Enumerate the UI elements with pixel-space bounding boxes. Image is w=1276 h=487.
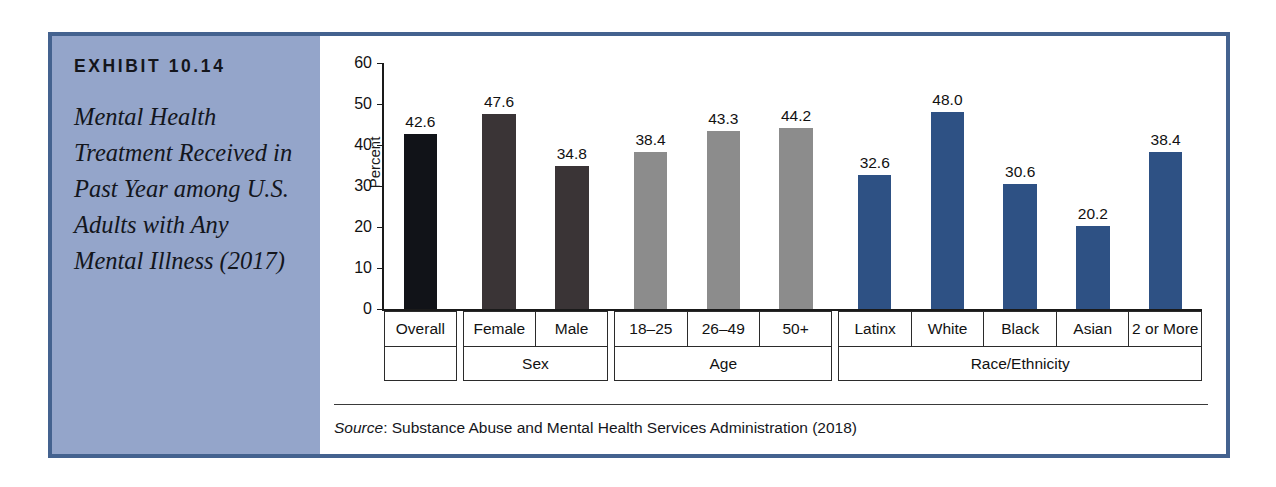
y-tick-label: 60 <box>338 55 372 71</box>
y-tick-label: 50 <box>338 96 372 112</box>
bar-value-label: 47.6 <box>464 94 534 110</box>
source-label: Source <box>334 419 383 436</box>
bar-value-label: 30.6 <box>985 164 1055 180</box>
bar <box>1076 226 1109 309</box>
source-line: Source: Substance Abuse and Mental Healt… <box>334 419 857 437</box>
bar <box>404 134 437 309</box>
category-cell: Asian <box>1057 312 1130 346</box>
bar-value-label: 32.6 <box>840 155 910 171</box>
source-separator: : <box>383 419 392 436</box>
category-cell: Overall <box>385 312 456 346</box>
bar-chart: Percent 0102030405060 42.647.634.838.443… <box>320 36 1226 454</box>
category-cell: 2 or More <box>1129 312 1201 346</box>
exhibit-frame: EXHIBIT 10.14 Mental Health Treatment Re… <box>48 32 1230 458</box>
category-cell: White <box>912 312 985 346</box>
y-tick-label: 0 <box>338 301 372 317</box>
bar-value-label: 43.3 <box>688 111 758 127</box>
category-cell: Male <box>536 312 607 346</box>
bar <box>555 166 588 309</box>
bar <box>1149 152 1182 309</box>
bar-value-label: 42.6 <box>385 114 455 130</box>
source-text: Substance Abuse and Mental Health Servic… <box>392 419 857 436</box>
category-group: Overall <box>384 311 457 381</box>
group-label: Age <box>614 346 832 381</box>
bar <box>482 114 515 309</box>
bar-value-label: 38.4 <box>616 132 686 148</box>
y-tick-label: 30 <box>338 178 372 194</box>
y-tick-label: 20 <box>338 219 372 235</box>
bar <box>858 175 891 309</box>
bar-value-label: 48.0 <box>912 92 982 108</box>
category-cell: Female <box>464 312 536 346</box>
group-label: Sex <box>463 346 608 381</box>
y-tick-label: 10 <box>338 260 372 276</box>
category-group: FemaleMaleSex <box>463 311 608 381</box>
category-row: LatinxWhiteBlackAsian2 or More <box>838 311 1202 346</box>
y-axis-title: Percent <box>366 103 383 223</box>
bar-value-label: 38.4 <box>1131 132 1201 148</box>
exhibit-caption-panel: EXHIBIT 10.14 Mental Health Treatment Re… <box>52 36 320 454</box>
category-group: 18–2526–4950+Age <box>614 311 832 381</box>
bar <box>1003 184 1036 309</box>
category-row: 18–2526–4950+ <box>614 311 832 346</box>
bar <box>707 131 740 309</box>
bars-layer: 42.647.634.838.443.344.232.648.030.620.2… <box>384 63 1202 309</box>
group-label-empty <box>384 346 457 381</box>
chart-panel: Percent 0102030405060 42.647.634.838.443… <box>320 36 1226 454</box>
category-cell: 50+ <box>760 312 831 346</box>
bar <box>634 152 667 309</box>
exhibit-title: Mental Health Treatment Received in Past… <box>74 99 300 279</box>
category-cell: Black <box>984 312 1057 346</box>
bar-value-label: 44.2 <box>761 108 831 124</box>
category-row: Overall <box>384 311 457 346</box>
category-group: LatinxWhiteBlackAsian2 or MoreRace/Ethni… <box>838 311 1202 381</box>
bar-value-label: 20.2 <box>1058 206 1128 222</box>
exhibit-number: EXHIBIT 10.14 <box>74 56 300 77</box>
category-cell: 18–25 <box>615 312 687 346</box>
category-cell: Latinx <box>839 312 912 346</box>
category-row: FemaleMale <box>463 311 608 346</box>
group-label: Race/Ethnicity <box>838 346 1202 381</box>
bar <box>931 112 964 309</box>
category-table: OverallFemaleMaleSex18–2526–4950+AgeLati… <box>384 311 1202 381</box>
bar <box>779 128 812 309</box>
y-tick-label: 40 <box>338 137 372 153</box>
source-divider <box>334 404 1208 405</box>
category-cell: 26–49 <box>688 312 760 346</box>
bar-value-label: 34.8 <box>537 146 607 162</box>
